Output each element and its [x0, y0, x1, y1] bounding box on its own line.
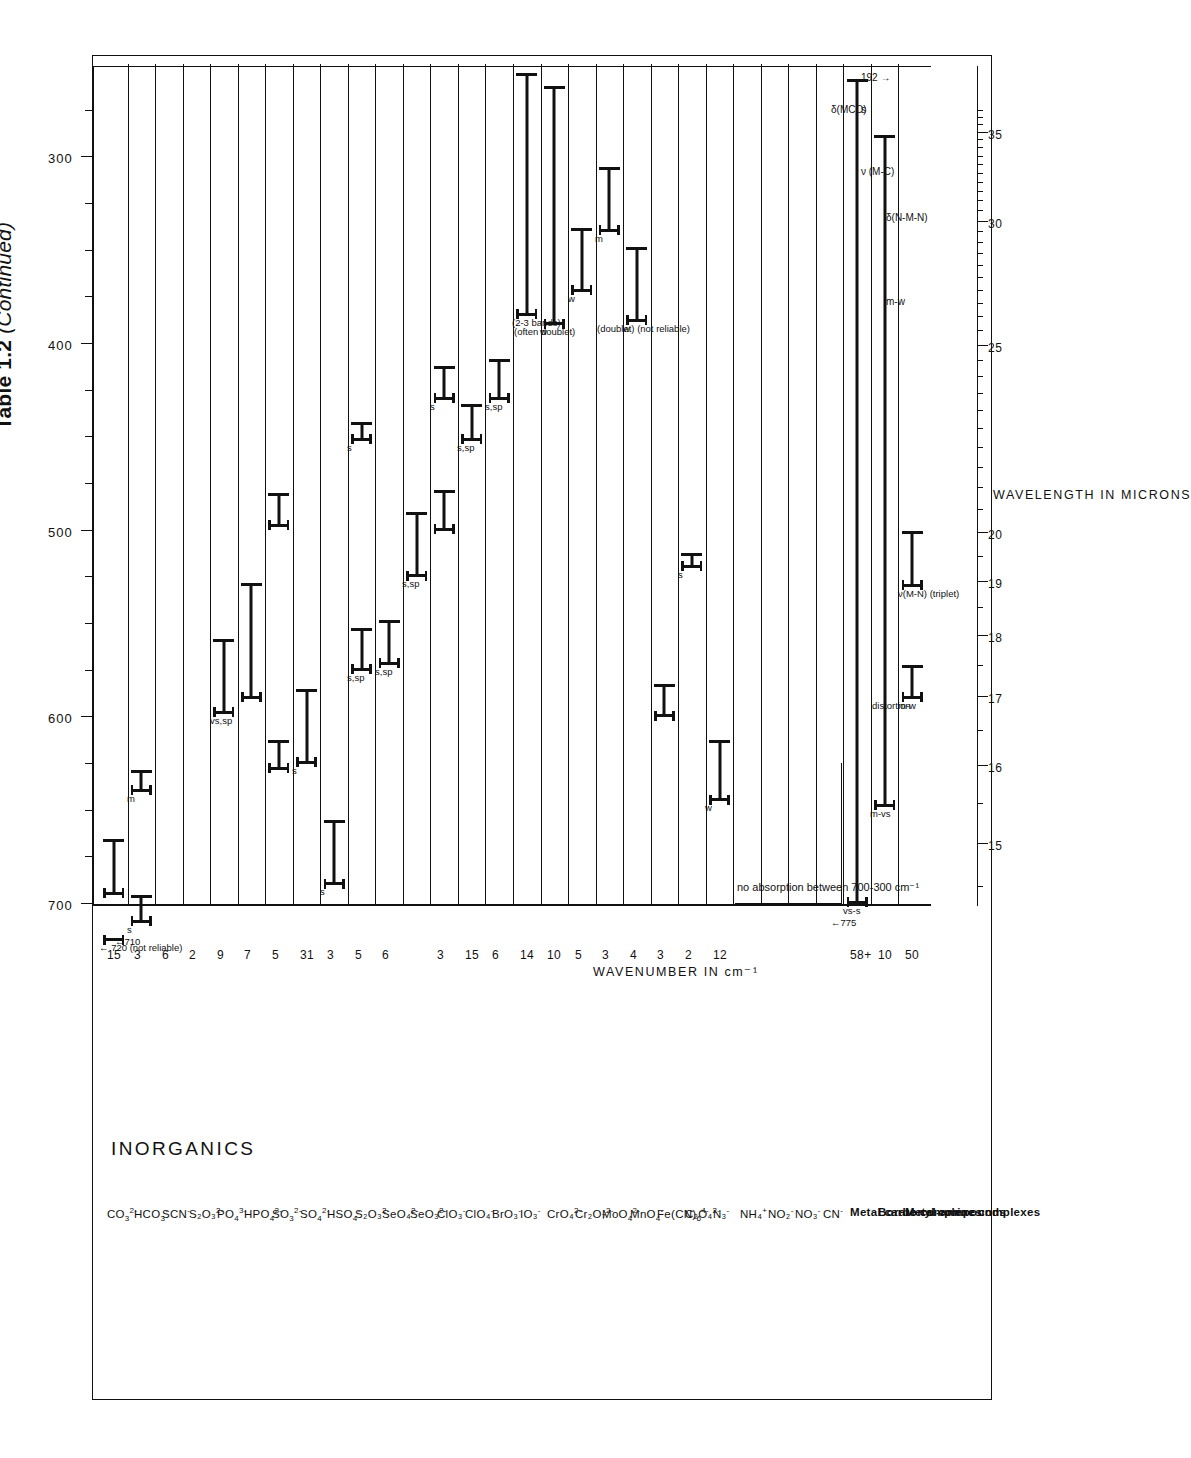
wavenumber-axis-title: WAVENUMBER IN cm⁻¹ [593, 964, 759, 979]
species-label: ClO₃- [437, 1206, 466, 1220]
micron-tick [977, 139, 983, 140]
band-note-label: (often doublet) [514, 327, 575, 337]
band-end-cap [544, 86, 565, 89]
band-intensity-label: s [347, 443, 352, 453]
wavenumber-tick [81, 530, 94, 531]
band-intensity-label: s,sp [402, 579, 419, 589]
wavenumber-tick [85, 483, 94, 484]
row-separator-line [871, 64, 872, 904]
band-end-cap [902, 531, 923, 534]
plot-area: 300400500600700← 720 (not reliable)s←710… [93, 66, 931, 906]
band-intensity-label: s,sp [457, 443, 474, 453]
band-core [360, 628, 363, 671]
micron-tick [977, 665, 983, 666]
band-intensity-label: m-vs [870, 809, 891, 819]
band-count-label: 7 [244, 948, 251, 962]
species-label: SO42- [300, 1206, 330, 1223]
species-label: N₃- [713, 1206, 730, 1220]
band-intensity-label: vs,sp [210, 716, 232, 726]
absorption-band-bar [626, 247, 647, 322]
band-intensity-label: s [127, 925, 132, 935]
band-core [498, 359, 501, 400]
micron-tick-label: 17 [988, 692, 1002, 706]
metal-carbonyl-s-label: s [861, 105, 866, 115]
band-end-cap [516, 313, 537, 316]
band-core [250, 583, 253, 699]
micron-tick [977, 173, 983, 174]
table-continued: (Continued) [0, 222, 15, 334]
micron-tick [977, 730, 983, 731]
micron-tick [977, 221, 988, 222]
absorption-band-bar [516, 73, 537, 316]
band-end-cap [571, 289, 592, 292]
band-core [140, 895, 143, 923]
absorption-band-bar [131, 770, 152, 792]
absorption-band-bar [544, 86, 565, 325]
wavenumber-tick [85, 576, 94, 577]
band-core [911, 665, 914, 699]
micron-tick [977, 393, 983, 394]
absorption-band-bar [213, 639, 234, 714]
band-count-label: 9 [217, 948, 224, 962]
micron-tick [977, 467, 983, 468]
micron-tick-label: 35 [988, 128, 1002, 142]
band-core [222, 639, 225, 714]
absorption-band-bar [902, 665, 923, 699]
micron-tick [977, 124, 983, 125]
absorption-band-bar [379, 620, 400, 665]
micron-tick [977, 210, 983, 211]
band-end-cap [461, 404, 482, 407]
band-end-cap [902, 696, 923, 699]
micron-tick [977, 532, 988, 533]
absorption-band-bar [268, 493, 289, 527]
band-end-cap [709, 798, 730, 801]
band-core [525, 73, 528, 316]
band-end-cap [434, 528, 455, 531]
band-end-cap [131, 770, 152, 773]
absorption-band-bar [434, 366, 455, 400]
ir-correlation-chart: 300400500600700← 720 (not reliable)s←710… [93, 66, 1023, 906]
band-count-label: 3 [437, 948, 444, 962]
row-separator-line [541, 64, 542, 904]
row-separator-line [348, 64, 349, 904]
band-end-cap [626, 247, 647, 250]
band-end-cap [571, 228, 592, 231]
row-separator-line [733, 64, 734, 904]
micron-tick [977, 843, 988, 844]
band-count-label: 2 [685, 948, 692, 962]
micron-tick [977, 303, 983, 304]
absorption-band-bar [351, 422, 372, 441]
band-end-cap [902, 584, 923, 587]
row-separator-line [210, 64, 211, 904]
band-intensity-label: s,sp [375, 667, 392, 677]
section-heading: INORGANICS [111, 1138, 255, 1160]
band-count-label: 3 [657, 948, 664, 962]
band-count-label: 50 [905, 948, 919, 962]
band-end-cap [434, 366, 455, 369]
band-count-label: 15 [107, 948, 121, 962]
absorption-band-bar [461, 404, 482, 441]
band-arrow-label: ←775 [831, 918, 856, 928]
band-end-cap [213, 711, 234, 714]
wavenumber-tick [85, 203, 94, 204]
band-end-cap [847, 901, 868, 904]
wavenumber-tick-label: 500 [48, 525, 73, 540]
micron-tick-label: 18 [988, 631, 1002, 645]
micron-tick [977, 200, 983, 201]
micron-tick [977, 765, 988, 766]
row-separator-line [238, 64, 239, 904]
band-end-cap [626, 319, 647, 322]
band-end-cap [268, 740, 289, 743]
micron-axis-title: WAVELENGTH IN MICRONS [993, 488, 1191, 502]
band-count-label: 10 [547, 948, 561, 962]
band-core [718, 740, 721, 802]
micron-tick [977, 290, 983, 291]
band-core [333, 820, 336, 885]
metal-amine-mw-label: m-w [886, 297, 905, 307]
absorption-band-bar [241, 583, 262, 699]
micron-tick [977, 886, 983, 887]
band-end-cap [406, 512, 427, 515]
band-intensity-label: s,sp [485, 402, 502, 412]
absorption-band-bar [296, 689, 317, 764]
wavenumber-tick [85, 623, 94, 624]
